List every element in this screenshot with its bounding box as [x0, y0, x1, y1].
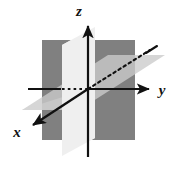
- axis-label-x: x: [12, 124, 21, 140]
- origin-point: [86, 87, 89, 90]
- plane-xz-overlap-shade: [62, 27, 95, 156]
- axis-label-z: z: [75, 3, 82, 19]
- coordinate-planes-figure: z y x: [0, 0, 179, 171]
- axis-x-negative-tip: [146, 46, 157, 53]
- axis-label-y: y: [157, 82, 166, 98]
- coordinate-system-diagram: z y x: [0, 0, 179, 171]
